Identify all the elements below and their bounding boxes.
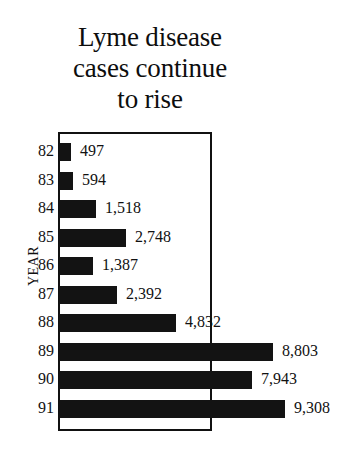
bar-category-label: 86	[24, 255, 54, 275]
bar-value-label: 8,803	[282, 341, 318, 361]
bar-row: 82497	[0, 143, 356, 161]
bar-row: 83594	[0, 172, 356, 190]
bar-value-label: 9,308	[294, 398, 330, 418]
page-title: Lyme disease cases continue to rise	[0, 22, 300, 115]
bar-category-label: 83	[24, 170, 54, 190]
bar-row: 841,518	[0, 200, 356, 218]
bar-category-label: 85	[24, 227, 54, 247]
bar-category-label: 82	[24, 141, 54, 161]
bar-rect	[59, 371, 252, 389]
bar-rect	[59, 257, 93, 275]
bar-value-label: 7,943	[261, 369, 297, 389]
bar-value-label: 4,832	[185, 312, 221, 332]
bar-rect	[59, 343, 273, 361]
bar-category-label: 88	[24, 312, 54, 332]
bar-row: 919,308	[0, 400, 356, 418]
bar-value-label: 1,387	[102, 255, 138, 275]
bar-rect	[59, 172, 73, 190]
bar-category-label: 91	[24, 398, 54, 418]
bar-value-label: 1,518	[105, 198, 141, 218]
title-line-3: to rise	[0, 84, 300, 115]
bar-row: 872,392	[0, 286, 356, 304]
bar-value-label: 594	[82, 170, 106, 190]
bar-rect	[59, 200, 96, 218]
bar-value-label: 2,392	[126, 284, 162, 304]
bar-row: 898,803	[0, 343, 356, 361]
bar-category-label: 90	[24, 369, 54, 389]
bar-rect	[59, 400, 285, 418]
bar-value-label: 497	[80, 141, 104, 161]
bar-rect	[59, 229, 126, 247]
bar-row: 861,387	[0, 257, 356, 275]
bar-series: 8249783594841,518852,748861,387872,39288…	[0, 132, 356, 431]
bar-category-label: 89	[24, 341, 54, 361]
bar-row: 907,943	[0, 371, 356, 389]
bar-category-label: 87	[24, 284, 54, 304]
bar-category-label: 84	[24, 198, 54, 218]
bar-row: 884,832	[0, 314, 356, 332]
bar-row: 852,748	[0, 229, 356, 247]
bar-rect	[59, 143, 71, 161]
bar-rect	[59, 286, 117, 304]
title-line-1: Lyme disease	[0, 22, 300, 53]
bar-rect	[59, 314, 176, 332]
bar-value-label: 2,748	[135, 227, 171, 247]
title-line-2: cases continue	[0, 53, 300, 84]
